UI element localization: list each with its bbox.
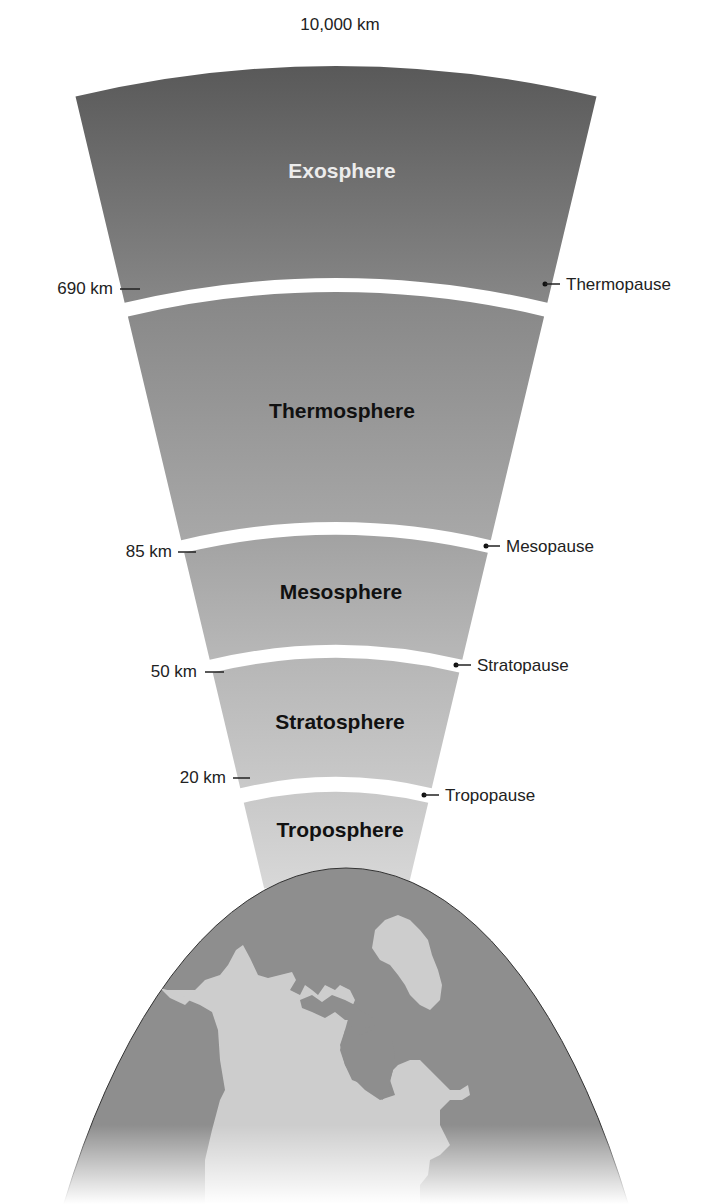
atmosphere-diagram: 10,000 km Exosphere Thermosphere Mesosph… [0, 0, 721, 1204]
label-stratosphere: Stratosphere [275, 710, 405, 733]
pause-tropopause: Tropopause [445, 786, 535, 805]
label-mesosphere: Mesosphere [280, 580, 403, 603]
earth [0, 868, 721, 1204]
atmosphere-layers [76, 66, 597, 888]
pause-thermopause: Thermopause [566, 275, 671, 294]
altitude-50km: 50 km [151, 662, 197, 681]
altitude-690km: 690 km [57, 279, 113, 298]
label-troposphere: Troposphere [276, 818, 403, 841]
altitude-20km: 20 km [180, 768, 226, 787]
label-thermosphere: Thermosphere [269, 399, 415, 422]
pause-mesopause: Mesopause [506, 537, 594, 556]
altitude-85km: 85 km [126, 542, 172, 561]
label-exosphere: Exosphere [288, 159, 395, 182]
layer-exosphere [76, 66, 597, 303]
earth-fade [0, 1125, 721, 1204]
pause-stratopause: Stratopause [477, 656, 569, 675]
top-altitude-label: 10,000 km [300, 15, 379, 34]
